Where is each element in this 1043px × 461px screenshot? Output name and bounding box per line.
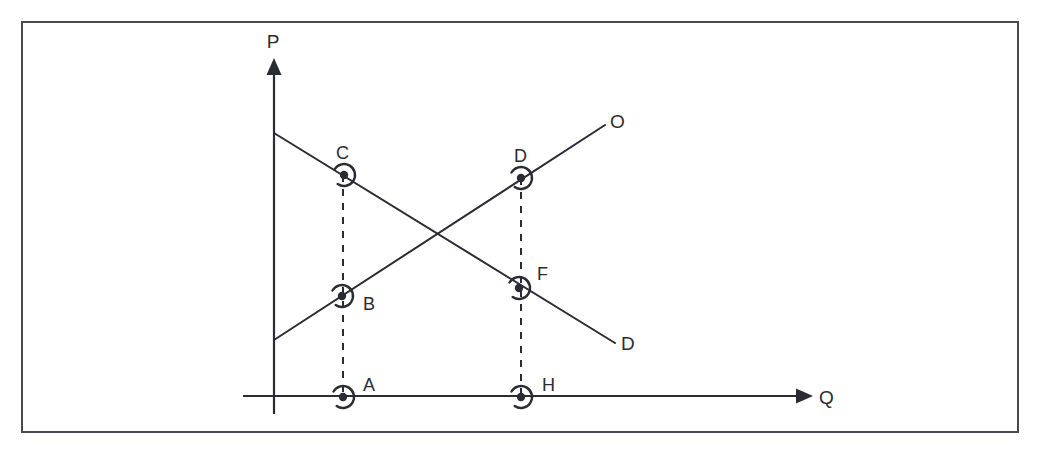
point-marker-dot-F xyxy=(515,284,523,292)
point-marker-dot-A xyxy=(339,393,347,401)
point-label-H: H xyxy=(542,375,555,395)
supply-curve-label: O xyxy=(610,111,625,132)
point-label-D: D xyxy=(514,146,527,166)
quantity-axis-label: Q xyxy=(819,387,834,408)
point-marker-dot-D xyxy=(517,174,525,182)
supply-demand-diagram: PQDOCDBFAH xyxy=(0,0,1043,461)
point-marker-dot-H xyxy=(517,393,525,401)
demand-curve-label: D xyxy=(621,333,635,354)
point-marker-dot-B xyxy=(338,292,346,300)
point-label-B: B xyxy=(363,294,375,314)
price-axis-label: P xyxy=(267,31,280,52)
point-label-F: F xyxy=(537,264,548,284)
point-label-A: A xyxy=(363,375,375,395)
point-marker-dot-C xyxy=(340,171,348,179)
figure-container: PQDOCDBFAH xyxy=(0,0,1043,461)
point-label-C: C xyxy=(336,143,349,163)
